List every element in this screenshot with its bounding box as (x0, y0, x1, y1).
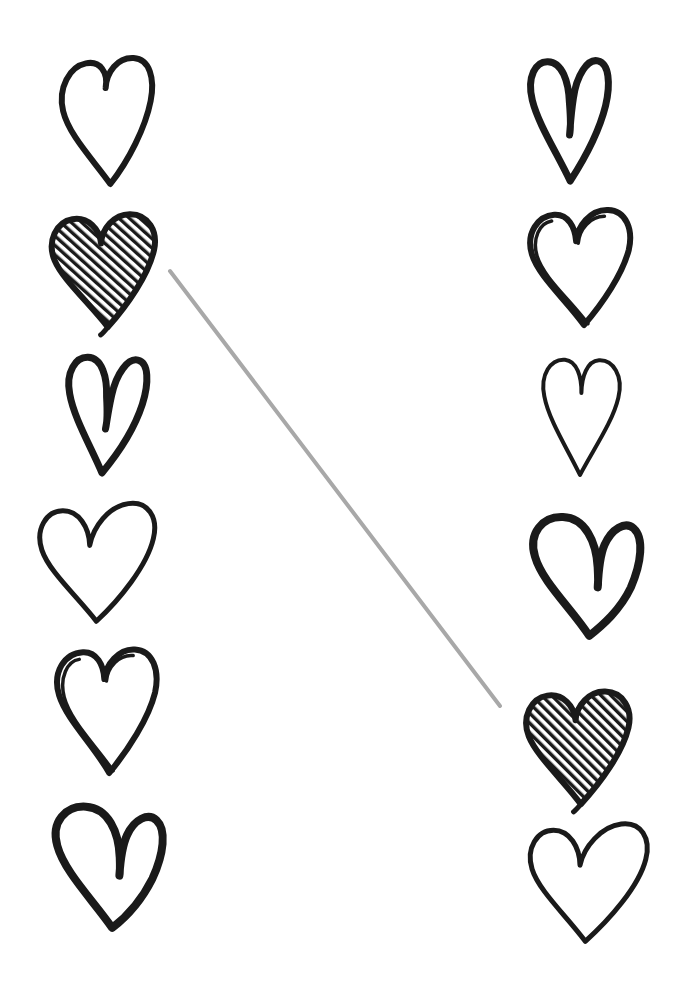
heart-left-3-hit[interactable]: Narrow notched heart (62, 353, 148, 475)
heart-right-1-hit[interactable]: Narrow notched heart (524, 55, 614, 183)
heart-right-2-hit[interactable]: Double stroke sketchy heart (526, 207, 638, 329)
heart-right-2-label: Double stroke sketchy heart (526, 207, 527, 208)
heart-left-5-hit[interactable]: Double stroke sketchy heart (52, 645, 162, 777)
heart-left-2-label: Hatched filled heart (50, 213, 51, 214)
heart-left-4-hit[interactable]: Wide tilted heart (38, 500, 164, 622)
heart-right-6-label: Wide tilted heart (528, 820, 529, 821)
heart-left-2-hit[interactable]: Hatched filled heart (50, 213, 162, 329)
heart-right-1-label: Narrow notched heart (524, 55, 525, 56)
heart-right-4-label: Bold asymmetric heart (530, 510, 531, 511)
heart-left-1-hit[interactable]: Wide outline heart (60, 58, 156, 186)
heart-right-6-hit[interactable]: Wide tilted heart (528, 820, 656, 942)
heart-left-3-label: Narrow notched heart (62, 353, 63, 354)
worksheet-page: Wide outline heart Hatched filled heart … (0, 0, 680, 996)
heart-right-5-label: Hatched filled heart (524, 690, 525, 691)
heart-right-5-hit[interactable]: Hatched filled heart (524, 690, 636, 806)
heart-left-6-label: Asymmetric heart with large left lobe (52, 800, 53, 801)
heart-right-4-hit[interactable]: Bold asymmetric heart (530, 510, 640, 638)
match-line[interactable] (170, 271, 500, 706)
heart-left-4-label: Wide tilted heart (38, 500, 39, 501)
heart-left-6-hit[interactable]: Asymmetric heart with large left lobe (52, 800, 162, 930)
heart-left-1-label: Wide outline heart (60, 58, 61, 59)
heart-left-5-label: Double stroke sketchy heart (52, 645, 53, 646)
heart-right-3-label: Thin symmetric heart (538, 355, 539, 356)
heart-right-3-hit[interactable]: Thin symmetric heart (538, 355, 624, 477)
